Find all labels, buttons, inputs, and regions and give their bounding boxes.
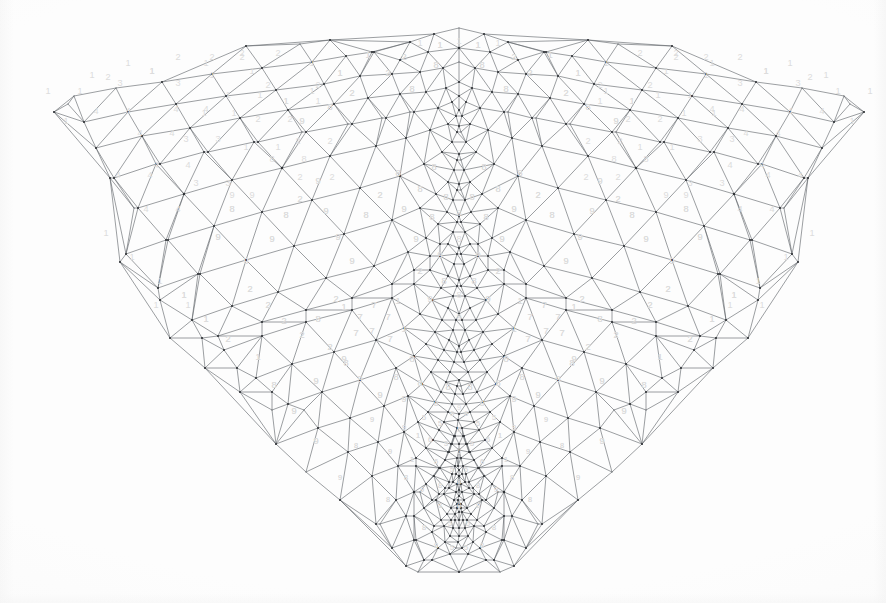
mesh-edge — [418, 560, 432, 572]
mesh-vertex — [277, 291, 279, 293]
mesh-vertex — [503, 539, 505, 541]
mesh-edge — [416, 532, 432, 540]
mesh-edge — [532, 98, 550, 118]
mesh-edge — [192, 274, 198, 320]
color-index-digit: 1 — [185, 300, 190, 310]
color-index-digit: 8 — [431, 162, 436, 172]
mesh-edge — [441, 520, 444, 526]
mesh-edge — [96, 112, 128, 148]
mesh-edge — [262, 322, 306, 336]
mesh-edge — [450, 536, 458, 542]
mesh-edge — [752, 240, 792, 254]
mesh-vertex — [458, 279, 460, 281]
mesh-vertex — [464, 329, 466, 331]
mesh-edge — [678, 118, 728, 128]
color-index-digit: 2 — [385, 68, 390, 78]
mesh-edge — [790, 88, 802, 112]
mesh-vertex — [287, 403, 289, 405]
mesh-vertex — [803, 177, 805, 179]
mesh-edge — [483, 402, 490, 412]
mesh-vertex — [423, 559, 425, 561]
mesh-vertex — [487, 255, 489, 257]
mesh-edge — [440, 466, 455, 468]
mesh-vertex — [347, 451, 349, 453]
mesh-vertex — [605, 199, 607, 201]
mesh-vertex — [437, 547, 439, 549]
mesh-edge — [392, 548, 406, 566]
mesh-vertex — [713, 151, 715, 153]
mesh-vertex — [439, 255, 441, 257]
mesh-edge — [469, 340, 474, 350]
mesh-edge — [681, 350, 694, 368]
mesh-edge — [473, 542, 480, 548]
mesh-vertex — [437, 223, 439, 225]
mesh-edge — [444, 420, 458, 422]
mesh-edge — [372, 476, 376, 524]
color-index-digit: 2 — [255, 114, 260, 124]
mesh-vertex — [543, 51, 545, 53]
mesh-vertex — [113, 177, 115, 179]
mesh-edge — [558, 156, 588, 188]
mesh-edge — [544, 52, 558, 76]
mesh-vertex — [493, 163, 495, 165]
mesh-edge — [512, 138, 518, 176]
color-index-digit: 2 — [807, 72, 812, 82]
mesh-edge — [457, 160, 464, 170]
mesh-vertex — [464, 199, 466, 201]
mesh-edge — [240, 392, 276, 444]
mesh-edge — [504, 112, 512, 138]
mesh-vertex — [863, 111, 865, 113]
mesh-edge — [574, 200, 606, 234]
mesh-edge — [435, 320, 442, 332]
mesh-edge — [450, 528, 453, 536]
mesh-edge — [433, 468, 439, 476]
mesh-edge — [368, 98, 386, 118]
mesh-edge — [474, 422, 479, 430]
color-index-digit: 1 — [103, 228, 108, 238]
mesh-vertex — [583, 351, 585, 353]
color-index-digit: 2 — [247, 284, 252, 294]
mesh-vertex — [455, 115, 457, 117]
mesh-edge — [184, 180, 232, 194]
mesh-vertex — [451, 473, 453, 475]
mesh-edge — [546, 452, 570, 476]
mesh-vertex — [453, 499, 455, 501]
mesh-edge — [694, 336, 700, 350]
mesh-edge — [477, 288, 486, 300]
mesh-edge — [426, 238, 430, 256]
color-index-digit: 1 — [709, 314, 714, 324]
mesh-edge — [435, 392, 441, 402]
mesh-vertex — [481, 193, 483, 195]
color-index-digit: 2 — [417, 266, 422, 276]
mesh-edge — [428, 412, 444, 422]
color-index-digit: 9 — [413, 234, 418, 244]
mesh-vertex — [543, 265, 545, 267]
mesh-vertex — [431, 299, 433, 301]
mesh-edge — [476, 320, 483, 332]
mesh-edge — [630, 90, 642, 110]
mesh-vertex — [441, 319, 443, 321]
mesh-vertex — [517, 175, 519, 177]
mesh-edge — [392, 176, 400, 220]
color-index-digit: 1 — [89, 70, 94, 80]
mesh-edge — [566, 310, 584, 352]
mesh-edge — [456, 314, 459, 320]
mesh-vertex — [167, 239, 169, 241]
color-index-digit: 2 — [175, 52, 180, 62]
mesh-vertex — [491, 483, 493, 485]
color-index-digit: 9 — [697, 232, 702, 242]
mesh-vertex — [479, 223, 481, 225]
color-index-digit: 8 — [363, 210, 368, 220]
color-index-digit: 1 — [437, 40, 442, 50]
mesh-vertex — [485, 559, 487, 561]
mesh-edge — [626, 336, 656, 364]
mesh-vertex — [391, 547, 393, 549]
mesh-edge — [470, 182, 482, 194]
mesh-vertex — [159, 299, 161, 301]
mesh-vertex — [495, 383, 497, 385]
mesh-vertex — [405, 565, 407, 567]
mesh-vertex — [255, 377, 257, 379]
mesh-vertex — [462, 465, 464, 467]
mesh-vertex — [437, 107, 439, 109]
mesh-vertex — [466, 507, 468, 509]
